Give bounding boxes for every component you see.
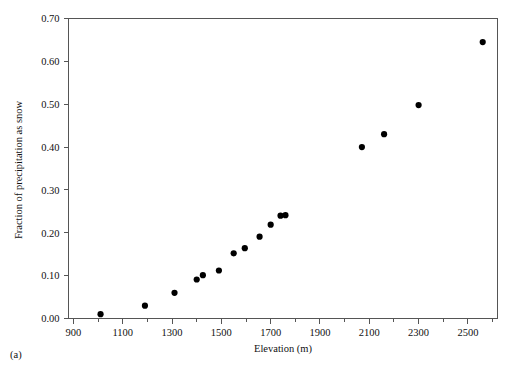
data-point — [200, 272, 206, 278]
data-point — [97, 311, 103, 317]
data-point — [416, 102, 422, 108]
data-point — [216, 267, 222, 273]
x-tick-label: 1500 — [211, 327, 232, 338]
x-tick-label: 1100 — [112, 327, 133, 338]
data-point — [194, 276, 200, 282]
x-tick-label: 1700 — [260, 327, 281, 338]
y-tick-label: 0.40 — [41, 142, 59, 153]
x-axis-title: Elevation (m) — [254, 343, 313, 355]
y-tick-label: 0.20 — [41, 228, 59, 239]
data-point — [268, 222, 274, 228]
y-axis-ticks — [64, 19, 69, 319]
x-axis-tick-labels: 90011001300150017001900210023002500 — [66, 327, 479, 338]
data-point — [381, 131, 387, 137]
y-tick-label: 0.50 — [41, 99, 59, 110]
data-point — [359, 144, 365, 150]
x-tick-label: 2100 — [359, 327, 380, 338]
data-point — [480, 39, 486, 45]
y-tick-label: 0.10 — [41, 270, 59, 281]
x-tick-label: 1300 — [162, 327, 183, 338]
scatter-chart-figure: 90011001300150017001900210023002500 0.00… — [0, 0, 526, 373]
y-tick-label: 0.60 — [41, 56, 59, 67]
y-tick-label: 0.70 — [41, 13, 59, 24]
y-axis-tick-labels: 0.000.100.200.300.400.500.600.70 — [41, 13, 59, 324]
y-tick-label: 0.30 — [41, 185, 59, 196]
x-tick-label: 2300 — [408, 327, 429, 338]
y-tick-label: 0.00 — [41, 313, 59, 324]
x-tick-label: 2500 — [457, 327, 478, 338]
data-point — [171, 290, 177, 296]
panel-label: (a) — [10, 349, 22, 361]
data-point — [242, 245, 248, 251]
chart-canvas: 90011001300150017001900210023002500 0.00… — [0, 0, 526, 373]
x-axis-ticks — [73, 319, 492, 324]
data-point — [231, 250, 237, 256]
data-point — [256, 234, 262, 240]
x-tick-label: 1900 — [309, 327, 330, 338]
data-point-series — [97, 39, 485, 317]
data-point — [282, 212, 288, 218]
data-point — [142, 303, 148, 309]
plot-frame — [69, 19, 498, 319]
x-tick-label: 900 — [66, 327, 82, 338]
y-axis-title: Fraction of precipitation as snow — [13, 100, 24, 239]
